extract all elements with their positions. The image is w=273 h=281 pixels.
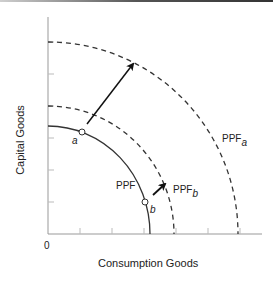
point-a <box>79 129 85 135</box>
axes <box>48 17 262 234</box>
shift-arrow-a <box>87 64 133 124</box>
point-a-label: a <box>72 135 78 146</box>
ppf-b-label-sub: b <box>192 188 198 199</box>
origin-label: 0 <box>44 240 50 251</box>
ppf-a-label-base: PPF <box>222 133 241 144</box>
shift-arrow-b <box>153 184 165 195</box>
ppf-b-label: PPFb <box>173 184 198 199</box>
point-b-label: b <box>150 204 156 215</box>
ppf-b-label-base: PPF <box>173 184 192 195</box>
point-b <box>142 199 148 205</box>
ppf-label: PPF <box>116 180 135 191</box>
ppf-a-label: PPFa <box>222 133 247 148</box>
y-axis-label: Capital Goods <box>14 105 26 175</box>
ppf-a-label-sub: a <box>241 137 247 148</box>
x-axis-label: Consumption Goods <box>98 257 198 269</box>
